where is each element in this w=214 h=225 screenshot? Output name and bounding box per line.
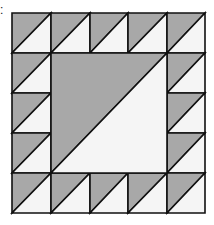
quilt-block-diagram [0, 0, 214, 225]
